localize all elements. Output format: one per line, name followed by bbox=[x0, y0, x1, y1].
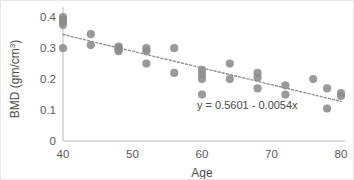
data-point bbox=[87, 30, 95, 38]
y-tick-label: 0.2 bbox=[40, 73, 56, 85]
y-tick-label: 0.4 bbox=[40, 11, 57, 23]
y-tick-label: 0.1 bbox=[40, 104, 56, 116]
data-points bbox=[59, 13, 345, 113]
data-point bbox=[337, 92, 345, 100]
plot-area: BMD (gm/cm3) 00.10.20.30.4 4050607080 y … bbox=[1, 1, 354, 180]
x-axis-title: Age bbox=[191, 166, 213, 180]
y-axis-tick-labels: 00.10.20.30.4 bbox=[40, 11, 57, 147]
y-tick-label: 0.3 bbox=[40, 42, 56, 54]
data-point bbox=[170, 69, 178, 77]
y-tick-label: 0 bbox=[50, 135, 56, 147]
data-point bbox=[309, 75, 317, 83]
x-tick-label: 60 bbox=[196, 148, 209, 160]
data-point bbox=[142, 60, 150, 68]
data-point bbox=[59, 44, 67, 52]
data-point bbox=[226, 75, 234, 83]
x-tick-label: 70 bbox=[265, 148, 278, 160]
equation-text: y = 0.5601 - 0.0054x bbox=[197, 99, 298, 111]
equation-annotation: y = 0.5601 - 0.0054x bbox=[197, 99, 298, 111]
data-point bbox=[226, 60, 234, 68]
data-point bbox=[59, 21, 67, 29]
data-point bbox=[254, 73, 262, 81]
y-axis-title: BMD (gm/cm3) bbox=[8, 40, 22, 118]
data-point bbox=[281, 90, 289, 98]
data-point bbox=[170, 44, 178, 52]
data-point bbox=[198, 90, 206, 98]
data-point bbox=[115, 47, 123, 55]
data-point bbox=[323, 104, 331, 112]
x-tick-label: 50 bbox=[126, 148, 139, 160]
x-tick-label: 40 bbox=[57, 148, 70, 160]
x-axis-tick-labels: 4050607080 bbox=[57, 148, 348, 160]
data-point bbox=[87, 41, 95, 49]
data-point bbox=[281, 81, 289, 89]
scatter-chart: BMD (gm/cm3) 00.10.20.30.4 4050607080 y … bbox=[0, 0, 354, 180]
y-axis-title-text: BMD (gm/cm3) bbox=[8, 40, 22, 118]
data-point bbox=[323, 84, 331, 92]
data-point bbox=[254, 84, 262, 92]
x-tick-label: 80 bbox=[335, 148, 348, 160]
data-point bbox=[142, 47, 150, 55]
data-point bbox=[198, 75, 206, 83]
x-axis-title-text: Age bbox=[191, 166, 213, 180]
